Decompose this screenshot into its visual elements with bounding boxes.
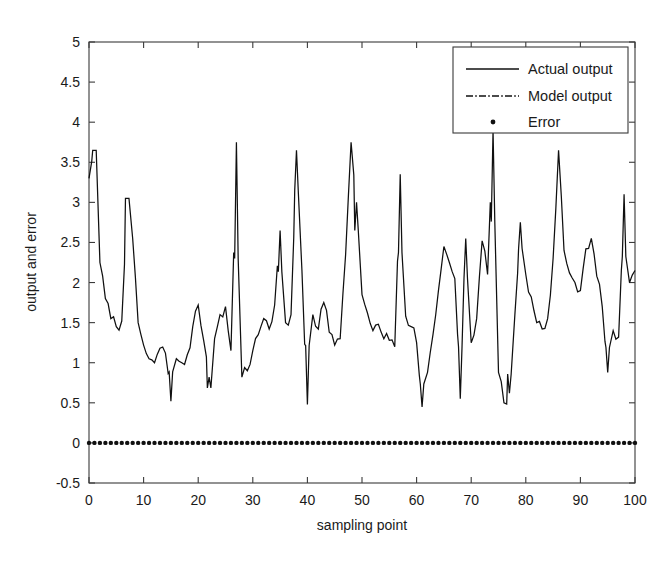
error-dot bbox=[474, 441, 478, 445]
error-dot bbox=[453, 441, 457, 445]
error-dot bbox=[431, 441, 435, 445]
error-dot bbox=[218, 441, 222, 445]
error-dot bbox=[425, 441, 429, 445]
error-dot bbox=[103, 441, 107, 445]
error-dot bbox=[212, 441, 216, 445]
error-dot bbox=[627, 441, 631, 445]
error-dot bbox=[469, 441, 473, 445]
error-dot bbox=[223, 441, 227, 445]
error-dot bbox=[354, 441, 358, 445]
error-dot bbox=[573, 441, 577, 445]
y-tick-label: 1 bbox=[72, 355, 80, 371]
error-dot bbox=[141, 441, 145, 445]
error-dot bbox=[300, 441, 304, 445]
error-dot bbox=[180, 441, 184, 445]
error-dot bbox=[169, 441, 173, 445]
y-tick-label: 3 bbox=[72, 194, 80, 210]
y-tick-label: -0.5 bbox=[56, 475, 80, 491]
error-dot bbox=[382, 441, 386, 445]
error-dot bbox=[343, 441, 347, 445]
y-tick-label: 0.5 bbox=[61, 395, 81, 411]
line-chart: -0.500.511.522.533.544.55 01020304050607… bbox=[0, 0, 672, 562]
figure-container: -0.500.511.522.533.544.55 01020304050607… bbox=[0, 0, 672, 562]
x-tick-label: 50 bbox=[354, 492, 370, 508]
legend[interactable]: Actual output Model output Error bbox=[453, 47, 628, 133]
error-dot bbox=[87, 441, 91, 445]
y-tick-label: 5 bbox=[72, 34, 80, 50]
error-dot bbox=[147, 441, 151, 445]
error-dot bbox=[256, 441, 260, 445]
error-dot bbox=[420, 441, 424, 445]
error-dot bbox=[387, 441, 391, 445]
dot-marker-icon bbox=[491, 120, 496, 125]
error-dot bbox=[278, 441, 282, 445]
x-tick-label: 0 bbox=[85, 492, 93, 508]
error-dot bbox=[240, 441, 244, 445]
x-tick-label: 70 bbox=[463, 492, 479, 508]
error-dot bbox=[158, 441, 162, 445]
error-dot bbox=[333, 441, 337, 445]
x-tick-label: 100 bbox=[623, 492, 647, 508]
error-dot bbox=[535, 441, 539, 445]
legend-label-error: Error bbox=[528, 114, 560, 130]
y-tick-label: 3.5 bbox=[61, 154, 81, 170]
error-dot bbox=[562, 441, 566, 445]
error-dot bbox=[480, 441, 484, 445]
error-dot bbox=[403, 441, 407, 445]
y-tick-label: 4.5 bbox=[61, 74, 81, 90]
error-dot bbox=[518, 441, 522, 445]
error-dot bbox=[125, 441, 129, 445]
error-dot bbox=[365, 441, 369, 445]
error-dot bbox=[513, 441, 517, 445]
error-dot bbox=[267, 441, 271, 445]
error-dot bbox=[584, 441, 588, 445]
error-dot bbox=[338, 441, 342, 445]
series-error-dots bbox=[87, 441, 637, 445]
error-dot bbox=[464, 441, 468, 445]
error-dot bbox=[92, 441, 96, 445]
error-dot bbox=[393, 441, 397, 445]
error-dot bbox=[507, 441, 511, 445]
error-dot bbox=[234, 441, 238, 445]
x-tick-label: 90 bbox=[573, 492, 589, 508]
y-axis-title: output and error bbox=[23, 212, 39, 312]
error-dot bbox=[229, 441, 233, 445]
error-dot bbox=[622, 441, 626, 445]
y-tick-label: 0 bbox=[72, 435, 80, 451]
error-dot bbox=[436, 441, 440, 445]
error-dot bbox=[376, 441, 380, 445]
error-dot bbox=[442, 441, 446, 445]
error-dot bbox=[491, 441, 495, 445]
error-dot bbox=[185, 441, 189, 445]
error-dot bbox=[556, 441, 560, 445]
error-dot bbox=[447, 441, 451, 445]
error-dot bbox=[502, 441, 506, 445]
x-tick-label: 60 bbox=[409, 492, 425, 508]
error-dot bbox=[136, 441, 140, 445]
x-tick-label: 40 bbox=[300, 492, 316, 508]
error-dot bbox=[611, 441, 615, 445]
error-dot bbox=[196, 441, 200, 445]
error-dot bbox=[322, 441, 326, 445]
x-tick-label: 10 bbox=[136, 492, 152, 508]
error-dot bbox=[316, 441, 320, 445]
y-tick-label: 1.5 bbox=[61, 315, 81, 331]
x-axis-title: sampling point bbox=[317, 517, 407, 533]
error-dot bbox=[551, 441, 555, 445]
x-tick-label: 30 bbox=[245, 492, 261, 508]
error-dot bbox=[349, 441, 353, 445]
error-dot bbox=[262, 441, 266, 445]
error-dot bbox=[251, 441, 255, 445]
error-dot bbox=[283, 441, 287, 445]
error-dot bbox=[207, 441, 211, 445]
error-dot bbox=[524, 441, 528, 445]
error-dot bbox=[616, 441, 620, 445]
error-dot bbox=[485, 441, 489, 445]
error-dot bbox=[191, 441, 195, 445]
x-tick-label: 20 bbox=[190, 492, 206, 508]
error-dot bbox=[595, 441, 599, 445]
y-tick-label: 4 bbox=[72, 114, 80, 130]
error-dot bbox=[633, 441, 637, 445]
error-dot bbox=[294, 441, 298, 445]
error-dot bbox=[245, 441, 249, 445]
